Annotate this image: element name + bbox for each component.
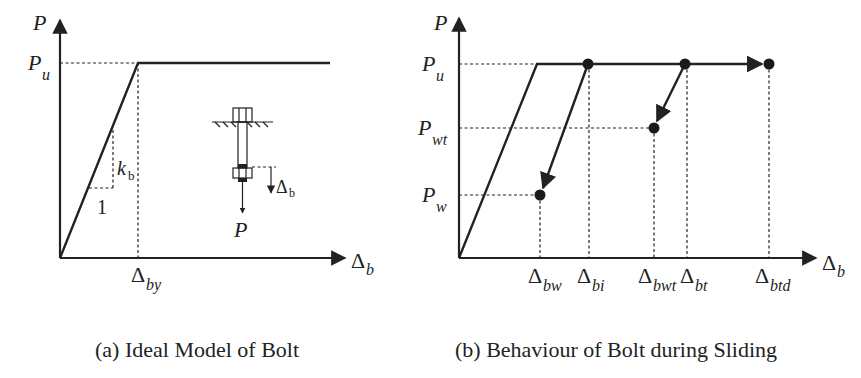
pu-label: P: [27, 50, 41, 75]
pu-sub: u: [42, 66, 50, 83]
point-bt: [680, 59, 691, 70]
point-bw: [535, 190, 546, 201]
dbt-symbol: Δ: [680, 263, 694, 288]
slope-one-label: 1: [97, 196, 107, 218]
point-bwt: [649, 123, 660, 134]
y-axis-label: P: [32, 10, 46, 35]
loading-curve: [459, 64, 685, 258]
bolt-force-label: P: [233, 217, 247, 242]
dbwt-sub: bwt: [653, 277, 677, 294]
dbw-sub: bw: [543, 277, 562, 294]
panel-a-ideal-model: P Δ b P u k b 1 Δ by: [27, 10, 374, 362]
dbtd-sub: btd: [770, 277, 791, 294]
bolt-sketch-icon: [212, 108, 276, 213]
kb-label: k: [117, 157, 127, 179]
dby-symbol: Δ: [131, 262, 145, 287]
pw-label: P: [421, 182, 435, 207]
dbwt-symbol: Δ: [638, 263, 652, 288]
x-axis-sub: b: [366, 261, 374, 278]
dbw-symbol: Δ: [528, 263, 542, 288]
bolt-behaviour-figure: P Δ b P u k b 1 Δ by: [0, 0, 861, 378]
dby-sub: by: [146, 276, 162, 294]
pu-sub: u: [436, 67, 444, 84]
ideal-curve: [60, 63, 330, 258]
dbi-sub: bi: [592, 277, 604, 294]
x-axis-symbol: Δ: [822, 250, 836, 275]
point-btd: [764, 59, 775, 70]
caption-a: (a) Ideal Model of Bolt: [95, 337, 299, 362]
bolt-disp-sub: b: [289, 186, 295, 200]
pwt-sub: wt: [432, 131, 448, 148]
x-axis-symbol: Δ: [351, 248, 365, 273]
pwt-label: P: [417, 115, 431, 140]
dbi-symbol: Δ: [577, 263, 591, 288]
panel-b-sliding-behaviour: P Δ b P u P wt P w Δ bw Δ bi: [417, 10, 845, 362]
unload-arrow-1: [543, 64, 588, 188]
dbtd-symbol: Δ: [755, 263, 769, 288]
caption-b: (b) Behaviour of Bolt during Sliding: [455, 337, 777, 362]
bolt-disp-symbol: Δ: [276, 177, 288, 197]
point-bi: [583, 59, 594, 70]
kb-sub: b: [128, 168, 135, 183]
y-axis-label: P: [433, 10, 447, 35]
x-axis-sub: b: [837, 263, 845, 280]
pw-sub: w: [436, 198, 447, 215]
unload-arrow-2: [657, 64, 685, 121]
pu-label: P: [421, 51, 435, 76]
dbt-sub: bt: [695, 277, 708, 294]
